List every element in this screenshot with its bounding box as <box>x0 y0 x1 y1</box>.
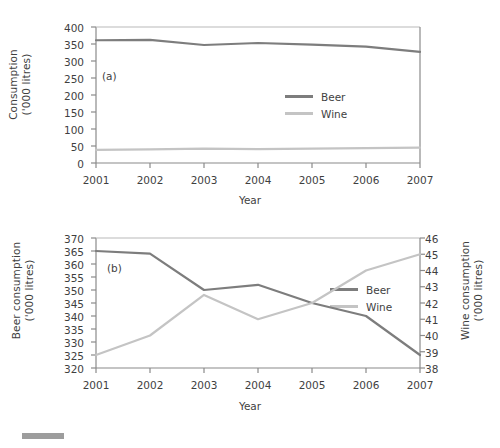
series-line-wine <box>96 148 420 150</box>
footer-marker-bar <box>22 433 64 439</box>
series-line-wine <box>96 254 420 355</box>
series-line-beer <box>96 251 420 355</box>
chart-panel-a: Consumption ('000 litres) 400 350 300 25… <box>0 14 500 214</box>
series-line-beer <box>96 40 420 52</box>
panel-b-plot-area <box>0 222 500 422</box>
panel-a-plot-area <box>0 14 500 214</box>
figure-two-panel-line-charts: Consumption ('000 litres) 400 350 300 25… <box>0 0 500 448</box>
chart-panel-b: Beer consumption ('000 litres) Wine cons… <box>0 222 500 432</box>
